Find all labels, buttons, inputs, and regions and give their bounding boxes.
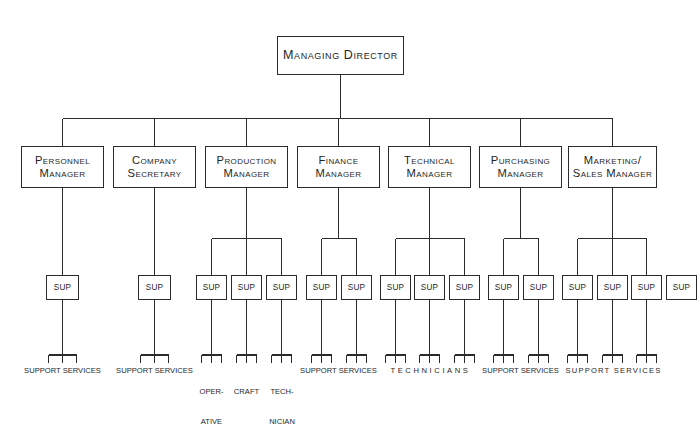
supervisor-label: SUP bbox=[273, 283, 290, 293]
finance-manager-line2: Manager bbox=[316, 167, 362, 180]
supervisor-label: SUP bbox=[456, 283, 473, 293]
supervisor-label: SUP bbox=[54, 283, 71, 293]
supervisor-label: SUP bbox=[238, 283, 255, 293]
supervisor-label: SUP bbox=[604, 283, 621, 293]
node-supervisor[interactable]: SUP bbox=[380, 275, 411, 300]
purchasing-manager-line1: Purchasing bbox=[491, 154, 550, 167]
finance-manager-line1: Finance bbox=[319, 154, 359, 167]
marketing-sales-manager-line2: Sales Manager bbox=[573, 167, 652, 180]
supervisor-label: SUP bbox=[203, 283, 220, 293]
node-personnel-manager[interactable]: Personnel Manager bbox=[21, 146, 104, 188]
node-supervisor[interactable]: SUP bbox=[231, 275, 262, 300]
supervisor-label: SUP bbox=[638, 283, 655, 293]
node-supervisor[interactable]: SUP bbox=[414, 275, 445, 300]
node-managing-director[interactable]: Managing Director bbox=[277, 36, 404, 75]
node-marketing-sales-manager[interactable]: Marketing/ Sales Manager bbox=[568, 146, 657, 188]
node-supervisor[interactable]: SUP bbox=[46, 275, 79, 300]
personnel-manager-line2: Manager bbox=[40, 167, 86, 180]
supervisor-label: SUP bbox=[530, 283, 547, 293]
supervisor-label: SUP bbox=[387, 283, 404, 293]
supervisor-label: SUP bbox=[495, 283, 512, 293]
leaf-support-services-personnel: SUPPORT SERVICES bbox=[12, 366, 113, 376]
supervisor-label: SUP bbox=[348, 283, 365, 293]
marketing-sales-manager-line1: Marketing/ bbox=[584, 154, 641, 167]
node-technical-manager[interactable]: Technical Manager bbox=[388, 146, 471, 188]
production-manager-line1: Production bbox=[217, 154, 277, 167]
supervisor-label: SUP bbox=[146, 283, 163, 293]
node-supervisor[interactable]: SUP bbox=[631, 275, 662, 300]
company-secretary-line1: Company bbox=[132, 154, 177, 167]
purchasing-manager-line2: Manager bbox=[498, 167, 544, 180]
node-company-secretary[interactable]: Company Secretary bbox=[113, 146, 196, 188]
node-supervisor[interactable]: SUP bbox=[597, 275, 628, 300]
company-secretary-line2: Secretary bbox=[128, 167, 182, 180]
technical-manager-line1: Technical bbox=[404, 154, 455, 167]
node-supervisor[interactable]: SUP bbox=[562, 275, 593, 300]
leaf-technicians: TECHNICIANS bbox=[378, 366, 483, 376]
node-supervisor[interactable]: SUP bbox=[306, 275, 337, 300]
managing-director-label: Managing Director bbox=[283, 48, 398, 63]
node-supervisor[interactable]: SUP bbox=[488, 275, 519, 300]
node-supervisor[interactable]: SUP bbox=[523, 275, 554, 300]
personnel-manager-line1: Personnel bbox=[35, 154, 90, 167]
leaf-technician-line2: NICIAN bbox=[259, 417, 305, 427]
node-supervisor[interactable]: SUP bbox=[138, 275, 171, 300]
node-production-manager[interactable]: Production Manager bbox=[205, 146, 288, 188]
supervisor-label: SUP bbox=[421, 283, 438, 293]
node-supervisor[interactable]: SUP bbox=[449, 275, 480, 300]
leaf-support-services-marketing: SUPPORT SERVICES bbox=[556, 366, 671, 376]
technical-manager-line2: Manager bbox=[407, 167, 453, 180]
supervisor-label: SUP bbox=[673, 283, 690, 293]
node-purchasing-manager[interactable]: Purchasing Manager bbox=[479, 146, 562, 188]
leaf-operative-line2: ATIVE bbox=[187, 417, 236, 427]
node-supervisor[interactable]: SUP bbox=[266, 275, 297, 300]
supervisor-label: SUP bbox=[569, 283, 586, 293]
node-supervisor-offscreen[interactable]: SUP bbox=[666, 275, 697, 300]
node-finance-manager[interactable]: Finance Manager bbox=[297, 146, 380, 188]
node-supervisor[interactable]: SUP bbox=[341, 275, 372, 300]
node-supervisor[interactable]: SUP bbox=[196, 275, 227, 300]
production-manager-line2: Manager bbox=[224, 167, 270, 180]
supervisor-label: SUP bbox=[313, 283, 330, 293]
leaf-technician-line1: TECH- bbox=[259, 387, 305, 397]
leaf-support-services-finance: SUPPORT SERVICES bbox=[288, 366, 389, 376]
